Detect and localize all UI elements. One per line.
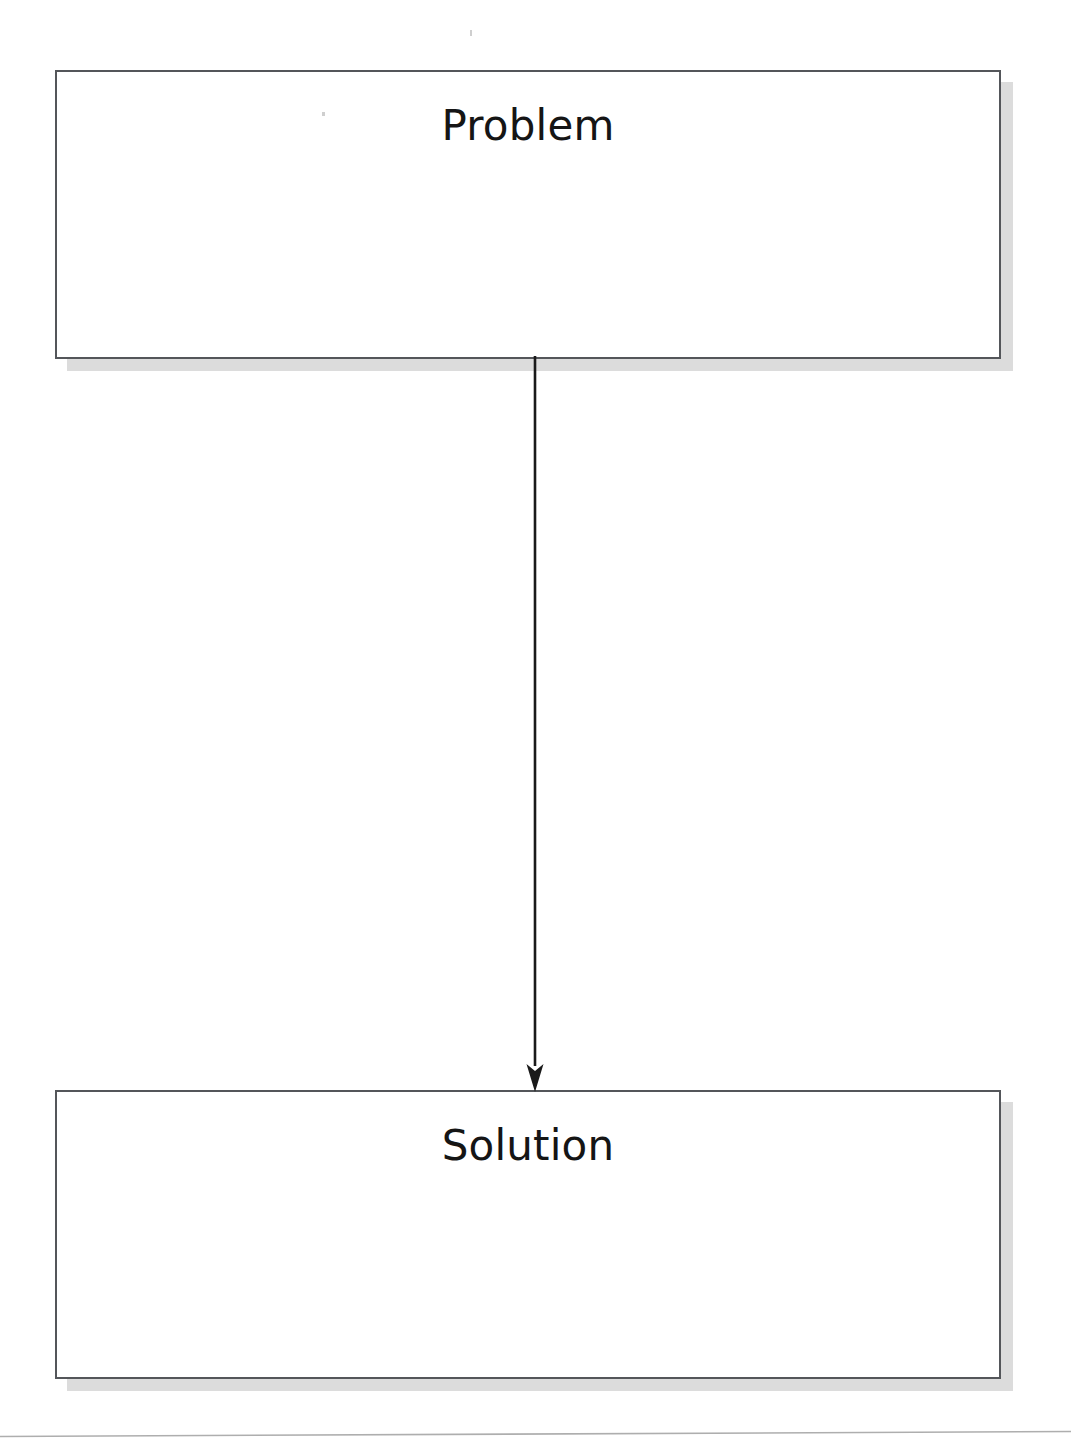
diagram-page: Problem Solution	[0, 0, 1071, 1449]
arrow-head-icon	[527, 1064, 544, 1092]
footer-rule-line	[0, 1432, 1071, 1437]
solution-box-label: Solution	[57, 1125, 999, 1167]
problem-box-label: Problem	[57, 105, 999, 147]
page-footer-rule	[0, 1429, 1071, 1439]
problem-box[interactable]: Problem	[55, 70, 1001, 359]
problem-to-solution-arrow	[498, 356, 572, 1092]
scan-speckle	[322, 112, 325, 116]
scan-speckle	[470, 30, 472, 36]
solution-box[interactable]: Solution	[55, 1090, 1001, 1379]
